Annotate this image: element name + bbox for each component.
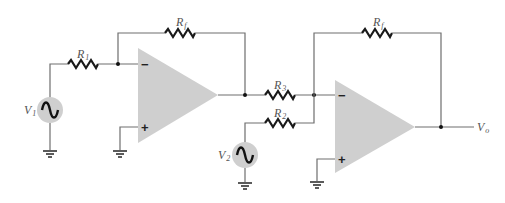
label-v2: V2	[218, 148, 230, 163]
resistor-r1	[68, 60, 98, 68]
inverting-input-sign: −	[141, 57, 149, 72]
noninverting-input-sign: +	[338, 152, 346, 167]
label-vo: Vo	[477, 120, 489, 135]
wire-plus1-ground	[120, 127, 138, 150]
label-r1: R1	[76, 47, 89, 62]
resistor-r2	[265, 119, 295, 127]
wire-v2-r2	[245, 123, 265, 145]
label-rf1: Rf	[175, 15, 188, 30]
ground-icon	[43, 151, 57, 157]
noninverting-input-sign: +	[141, 120, 149, 135]
wire-r2-node	[295, 95, 314, 123]
resistor-r3	[265, 91, 295, 99]
circuit-diagram: − + − + R1 Rf V1 R3 R2 V2 Rf Vo	[0, 0, 505, 203]
label-rf2: Rf	[372, 15, 385, 30]
label-r3: R3	[273, 78, 286, 93]
wire-plus2-ground	[317, 159, 335, 181]
inverting-input-sign: −	[338, 88, 346, 103]
junction-node	[439, 125, 443, 129]
resistor-rf1	[165, 29, 195, 37]
wire-feedback1-right	[195, 33, 245, 95]
wire-v1-r1	[50, 64, 68, 98]
ground-icon	[238, 183, 252, 189]
label-r2: R2	[273, 106, 286, 121]
wire-feedback2-right	[392, 33, 441, 127]
op-amp-2	[335, 80, 415, 173]
ground-icon	[113, 151, 127, 157]
ground-icon	[310, 182, 324, 188]
label-v1: V1	[24, 103, 36, 118]
junction-node	[116, 62, 120, 66]
junction-node	[243, 93, 247, 97]
op-amp-1	[138, 48, 218, 143]
resistor-rf2	[362, 29, 392, 37]
